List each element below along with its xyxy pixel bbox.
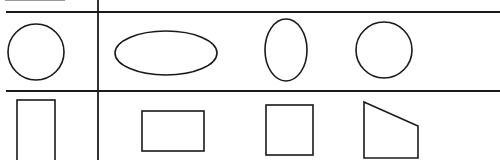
tall-rectangle-shape [17,100,55,160]
square-shape [266,105,313,155]
row-round-shapes [8,19,412,81]
row-angular-shapes [17,100,418,160]
wide-rectangle-shape [142,111,204,151]
shape-diagram [0,0,500,160]
circle-shape-left [8,24,64,80]
trapezoid-shape [364,102,418,158]
vertical-ellipse-shape [265,19,307,81]
circle-shape-right [356,22,412,78]
horizontal-ellipse-shape [115,31,217,75]
